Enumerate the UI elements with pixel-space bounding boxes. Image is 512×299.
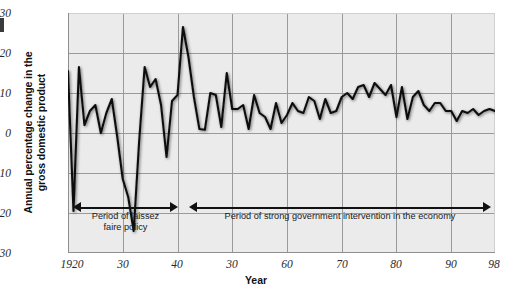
laissez-faire-label-line2: faire policy: [73, 222, 178, 233]
y-tick-20: 20: [0, 47, 11, 59]
page-edge-mark: [0, 18, 4, 32]
x-tick-1930: 30: [117, 258, 129, 270]
government-intervention-label: Period of strong government intervention…: [189, 211, 491, 222]
x-tick-1960: 60: [281, 258, 293, 270]
laissez-faire-label-line1: Period of laissez: [73, 211, 178, 222]
y-axis-title-line2: gross domestic product: [34, 13, 47, 253]
plot-inner: Period of laissez faire policy Period of…: [68, 13, 495, 253]
y-tick-0: 0: [0, 127, 11, 139]
y-tick-10: 10: [0, 87, 11, 99]
x-tick-1970: 70: [336, 258, 348, 270]
y-tick-neg30: -30: [0, 247, 11, 259]
arrow-bar: [79, 207, 172, 209]
y-axis-title: Annual percentage change in the gross do…: [22, 13, 47, 253]
x-tick-1998: 98: [488, 258, 500, 270]
x-tick-1990: 90: [445, 258, 457, 270]
x-axis-title: Year: [0, 274, 512, 286]
y-tick-neg20: -20: [0, 207, 11, 219]
y-tick-30: 30: [0, 7, 11, 19]
chart-figure: Annual percentage change in the gross do…: [0, 0, 512, 299]
y-axis-title-line1: Annual percentage change in the: [22, 52, 34, 214]
x-tick-1980: 80: [390, 258, 402, 270]
plot-area: Period of laissez faire policy Period of…: [68, 13, 495, 253]
x-tick-1920: 1920: [61, 258, 84, 270]
x-tick-1950: 30: [226, 258, 238, 270]
x-tick-1940: 40: [171, 258, 183, 270]
laissez-faire-label: Period of laissez faire policy: [73, 211, 178, 233]
government-intervention-label-line1: Period of strong government intervention…: [189, 211, 491, 222]
y-tick-neg10: -10: [0, 167, 11, 179]
arrow-bar: [195, 207, 485, 209]
